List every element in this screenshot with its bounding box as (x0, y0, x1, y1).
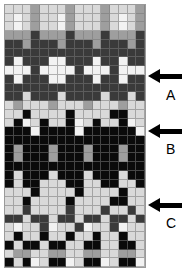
pattern-cell (101, 145, 110, 154)
pattern-cell (23, 223, 32, 232)
pattern-cell (119, 188, 128, 197)
pattern-cell (14, 223, 23, 232)
pattern-cell (84, 5, 93, 14)
pattern-cell (14, 22, 23, 31)
pattern-cell (93, 119, 102, 128)
pattern-cell (119, 223, 128, 232)
pattern-cell (40, 127, 49, 136)
pattern-cell (31, 57, 40, 66)
pattern-cell (110, 215, 119, 224)
pattern-cell (128, 197, 137, 206)
pattern-cell (119, 258, 128, 267)
pattern-cell (128, 136, 137, 145)
pattern-cell (23, 127, 32, 136)
pattern-cell (75, 162, 84, 171)
pattern-cell (40, 145, 49, 154)
pattern-cell (66, 171, 75, 180)
pattern-cell (101, 250, 110, 259)
pattern-cell (84, 215, 93, 224)
pattern-cell (101, 153, 110, 162)
pattern-cell (93, 258, 102, 267)
pattern-cell (58, 57, 67, 66)
pattern-cell (58, 250, 67, 259)
pattern-cell (66, 136, 75, 145)
pattern-cell (31, 14, 40, 23)
pattern-cell (84, 241, 93, 250)
pattern-cell (23, 136, 32, 145)
pattern-cell (84, 206, 93, 215)
pattern-cell (14, 206, 23, 215)
pattern-cell (110, 49, 119, 58)
pattern-cell (84, 153, 93, 162)
pattern-cell (66, 188, 75, 197)
pattern-cell (136, 66, 145, 75)
pattern-cell (110, 258, 119, 267)
pattern-cell (136, 22, 145, 31)
pattern-cell (66, 22, 75, 31)
pattern-cell (119, 57, 128, 66)
pattern-cell (31, 250, 40, 259)
pattern-cell (119, 84, 128, 93)
pattern-cell (119, 162, 128, 171)
annotation-label-c: C (166, 216, 176, 230)
pattern-cell (49, 49, 58, 58)
pattern-cell (23, 101, 32, 110)
pattern-cell (128, 232, 137, 241)
pattern-cell (128, 22, 137, 31)
pattern-cell (75, 136, 84, 145)
pattern-cell (93, 101, 102, 110)
pattern-cell (31, 197, 40, 206)
pattern-cell (93, 250, 102, 259)
pattern-cell (23, 171, 32, 180)
annotation-label-a: A (166, 88, 175, 102)
pattern-cell (40, 57, 49, 66)
pattern-cell (23, 5, 32, 14)
pattern-cell (84, 197, 93, 206)
pattern-cell (14, 66, 23, 75)
pattern-cell (66, 241, 75, 250)
pattern-cell (23, 258, 32, 267)
pattern-cell (23, 84, 32, 93)
pattern-cell (136, 153, 145, 162)
pattern-cell (40, 31, 49, 40)
pattern-cell (128, 75, 137, 84)
pattern-cell (110, 223, 119, 232)
pattern-cell (119, 31, 128, 40)
pattern-cell (84, 110, 93, 119)
pattern-cell (101, 180, 110, 189)
pattern-cell (93, 75, 102, 84)
pattern-cell (58, 22, 67, 31)
pattern-cell (23, 180, 32, 189)
pattern-cell (14, 75, 23, 84)
pattern-cell (49, 188, 58, 197)
pattern-cell (31, 40, 40, 49)
pattern-cell (84, 145, 93, 154)
pattern-cell (40, 180, 49, 189)
pattern-cell (93, 5, 102, 14)
pattern-cell (5, 57, 14, 66)
pattern-cell (93, 162, 102, 171)
pattern-cell (58, 127, 67, 136)
pattern-cell (23, 66, 32, 75)
pattern-cell (14, 110, 23, 119)
pattern-cell (5, 110, 14, 119)
pattern-cell (136, 57, 145, 66)
pattern-cell (75, 66, 84, 75)
pattern-cell (119, 49, 128, 58)
pattern-cell (5, 84, 14, 93)
pattern-cell (49, 136, 58, 145)
pattern-cell (101, 101, 110, 110)
pattern-cell (40, 14, 49, 23)
pattern-cell (75, 241, 84, 250)
pattern-cell (31, 215, 40, 224)
pattern-cell (110, 232, 119, 241)
pattern-cell (110, 241, 119, 250)
pattern-cell (119, 66, 128, 75)
pattern-cell (58, 119, 67, 128)
pattern-cell (75, 223, 84, 232)
pattern-cell (119, 110, 128, 119)
pattern-cell (66, 162, 75, 171)
pattern-cell (75, 232, 84, 241)
pattern-cell (75, 22, 84, 31)
pattern-cell (84, 258, 93, 267)
